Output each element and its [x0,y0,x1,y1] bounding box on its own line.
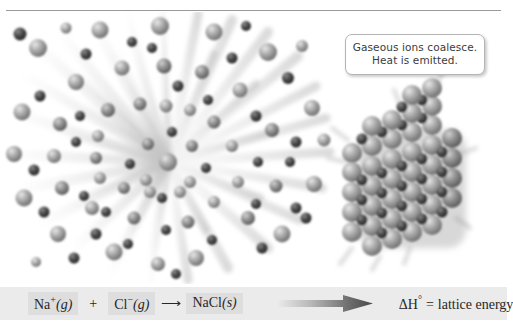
enthalpy-label: ΔH°=lattice energy [399,294,513,313]
delta-h-symbol: ΔH [399,297,418,312]
energy-gradient-arrow-icon [277,295,373,312]
nacl-crystal [328,68,476,270]
plus-operator: + [78,296,108,312]
callout-line-1: Gaseous ions coalesce. [352,41,478,54]
product-state: (s) [222,295,237,310]
product-sodium-chloride: NaCl(s) [186,293,242,314]
gas-ion-cloud [6,12,331,282]
reactant-sodium-ion: Na+(g) [28,292,78,316]
reactant1-formula: Na [34,296,50,311]
equation-bar: Na+(g) + Cl−(g) ⟶ NaCl(s) [0,287,507,320]
callout-box: Gaseous ions coalesce. Heat is emitted. [345,34,485,75]
reactant2-state: (g) [133,296,149,311]
reactant1-state: (g) [56,296,72,311]
callout-line-2: Heat is emitted. [352,54,478,67]
top-divider-rule [6,10,501,11]
product-formula: NaCl [192,295,222,310]
equals-symbol: = [422,297,438,312]
reactant2-formula: Cl [114,296,127,311]
lattice-energy-text: lattice energy [438,297,513,312]
reaction-arrow: ⟶ [155,295,186,312]
reactant-chloride-ion: Cl−(g) [108,292,155,316]
